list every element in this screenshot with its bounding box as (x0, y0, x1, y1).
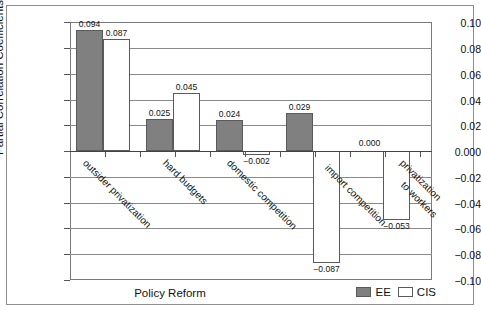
y-tick-mark-10 (64, 280, 70, 281)
x-tick-mark-8 (385, 152, 386, 157)
x-tick-mark-1 (140, 152, 141, 157)
chart-figure: Partial Correlation Coefficients 0.10 0.… (0, 0, 481, 311)
legend-label-ee: EE (375, 286, 390, 298)
gridline--0.08 (70, 254, 432, 255)
x-tick-mark-5 (280, 152, 281, 157)
legend-item-ee[interactable]: EE (356, 286, 390, 298)
bar-ee-group-4[interactable] (286, 113, 313, 151)
bar-ee-outsider-privatization[interactable] (76, 30, 103, 151)
x-tick-mark-9 (420, 152, 421, 157)
x-tick-mark-0 (105, 152, 106, 157)
bar-label-ee-4: 0.000 (349, 139, 390, 148)
x-tick-mark-3 (210, 152, 211, 157)
x-tick-mark-6 (315, 152, 316, 157)
bar-label-cis-1: 0.045 (166, 83, 207, 92)
zero-line (70, 151, 432, 152)
bar-label-cis-0: 0.087 (96, 29, 137, 38)
bar-cis-outsider-privatization[interactable] (103, 39, 130, 151)
x-axis-title: Policy Reform (0, 288, 340, 300)
x-tick-mark-2 (175, 152, 176, 157)
legend-swatch-cis-icon (398, 287, 413, 297)
bar-ee-domestic-competition[interactable] (216, 120, 243, 151)
chart-legend: EE CIS (356, 286, 436, 298)
legend-label-cis: CIS (417, 286, 436, 298)
bar-label-ee-3: 0.029 (279, 103, 320, 112)
legend-swatch-ee-icon (356, 287, 371, 297)
legend-item-cis[interactable]: CIS (398, 286, 436, 298)
bar-label-ee-2: 0.024 (209, 110, 250, 119)
bar-cis-hard-budgets[interactable] (173, 93, 200, 151)
x-tick-mark-4 (245, 152, 246, 157)
y-axis-title: Partial Correlation Coefficients (0, 0, 6, 155)
bar-label-cis-3: −0.087 (306, 265, 347, 274)
bar-label-ee-0: 0.094 (69, 20, 110, 29)
bar-label-cis-2: −0.002 (236, 157, 277, 166)
x-tick-mark-7 (350, 152, 351, 157)
bar-ee-hard-budgets[interactable] (146, 119, 173, 151)
